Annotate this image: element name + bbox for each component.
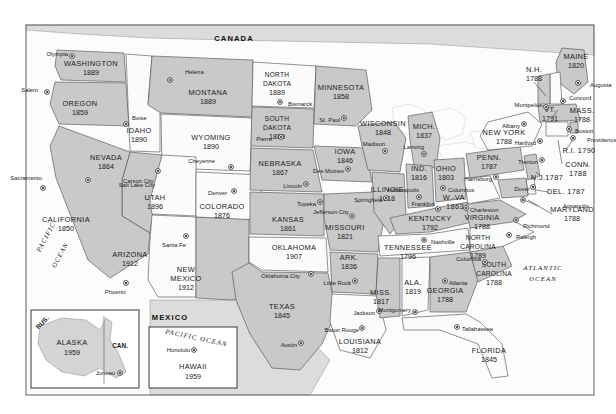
capital-marker-core-SD bbox=[280, 136, 282, 138]
state-year-NM: 1912 bbox=[178, 283, 194, 292]
capital-label-IN: Indianapolis bbox=[388, 187, 419, 193]
capital-marker-core-RI bbox=[572, 137, 574, 139]
capital-marker-core-SC bbox=[484, 261, 486, 263]
state-name-WI: WISCONSIN bbox=[360, 119, 406, 128]
capital-label-RI: Providence bbox=[587, 137, 616, 143]
state-name-MA: MASS. bbox=[570, 106, 595, 115]
inset-hawaii: PACIFIC OCEAN Honolulu HAWAII 1959 bbox=[149, 327, 237, 388]
state-name-FL: FLORIDA bbox=[472, 346, 506, 355]
capital-marker-core-IN bbox=[418, 196, 420, 198]
state-name-UT: UTAH bbox=[145, 193, 166, 202]
state-name-OH: OHIO bbox=[436, 164, 456, 173]
state-name-MI: MICH. bbox=[413, 122, 436, 131]
state-name-ND: NORTH bbox=[265, 71, 290, 78]
state-year-MI: 1837 bbox=[416, 131, 432, 140]
capital-label-ME: Augusta bbox=[590, 82, 612, 88]
capital-marker-core-MO bbox=[351, 215, 353, 217]
state-name-NJ: N.J.1787 bbox=[531, 173, 563, 182]
state-name-CT: CONN. bbox=[565, 160, 591, 169]
state-year-MA: 1788 bbox=[574, 115, 590, 124]
state-name-OR: OREGON bbox=[63, 99, 98, 108]
state-name-IA: IOWA bbox=[335, 147, 356, 156]
state-name-GA: GEORGIA bbox=[427, 286, 464, 295]
state-year-KY: 1792 bbox=[422, 223, 438, 232]
state-year-ND: 1889 bbox=[269, 88, 285, 97]
capital-marker-core-NE bbox=[305, 183, 307, 185]
capital-marker-core-KY bbox=[437, 208, 439, 210]
state-name-SC: CAROLINA bbox=[476, 270, 512, 277]
capital-label-WA: Olympia bbox=[46, 51, 68, 57]
state-year-TX: 1845 bbox=[274, 311, 290, 320]
state-name-AL: ALA. bbox=[404, 278, 421, 287]
capital-label-VT: Montpelier bbox=[514, 102, 542, 108]
state-name-WV: 1863 bbox=[446, 202, 464, 211]
inset-label-hawaii: HAWAII bbox=[179, 362, 207, 371]
state-name-LA: LOUISIANA bbox=[339, 337, 382, 346]
capital-label-AL: Montgomery bbox=[378, 307, 411, 313]
capital-label-AZ: Phoenix bbox=[105, 289, 126, 295]
capital-label-MO: Jefferson City bbox=[313, 209, 349, 215]
capital-label-WV: Charleston bbox=[470, 207, 499, 213]
capital-marker-core-NM bbox=[185, 235, 187, 237]
state-name-RI: R.I. 1790 bbox=[562, 146, 595, 155]
capital-label-MS: Jackson bbox=[353, 310, 375, 316]
state-year-CO: 1876 bbox=[214, 211, 230, 220]
state-name-MN: MINNESOTA bbox=[318, 83, 365, 92]
state-year-OK: 1907 bbox=[286, 252, 302, 261]
state-name-OK: OKLAHOMA bbox=[272, 243, 317, 252]
state-year-ME: 1820 bbox=[568, 61, 584, 70]
state-year-LA: 1812 bbox=[352, 346, 368, 355]
capital-label-FL: Tallahassee bbox=[462, 326, 494, 332]
capital-marker-core-IL bbox=[385, 197, 387, 199]
capital-marker-core-NH bbox=[562, 100, 564, 102]
capital-label-VA: Richmond bbox=[523, 223, 550, 229]
capital-marker-core-PA bbox=[495, 176, 497, 178]
state-name-ME: MAINE bbox=[563, 52, 588, 61]
state-year-WY: 1890 bbox=[203, 142, 219, 151]
state-name-SD: DAKOTA bbox=[263, 124, 291, 131]
state-name-AZ: ARIZONA bbox=[112, 250, 147, 259]
capital-marker-core-MA bbox=[568, 128, 570, 130]
state-name-MT: MONTANA bbox=[189, 88, 228, 97]
state-name-WY: WYOMING bbox=[191, 133, 230, 142]
capital-label-CT: Hartford bbox=[515, 140, 536, 146]
state-year-NE: 1867 bbox=[272, 168, 288, 177]
state-name-VA: VIRGINIA bbox=[464, 213, 499, 222]
capital-marker-core-KS bbox=[319, 201, 321, 203]
state-name-NE: NEBRASKA bbox=[258, 159, 301, 168]
capital-marker-core-VA bbox=[515, 219, 517, 221]
ocean-label-atlantic-line1: ATLANTIC bbox=[522, 264, 563, 271]
state-year-OH: 1803 bbox=[438, 173, 454, 182]
state-year-IA: 1846 bbox=[337, 156, 353, 165]
state-name-MS: MISS. bbox=[370, 288, 392, 297]
state-year-NY: 1788 bbox=[496, 137, 512, 146]
state-name-WV: W.-VA. bbox=[443, 193, 468, 202]
state-year-CA: 1850 bbox=[58, 224, 74, 233]
capital-marker-core-ND bbox=[279, 101, 281, 103]
capital-label-NC: Raleigh bbox=[516, 234, 536, 240]
capital-marker-core-OR bbox=[46, 91, 48, 93]
state-name-CO: COLORADO bbox=[199, 202, 244, 211]
capital-marker-core-UT bbox=[157, 170, 159, 172]
state-name-KS: KANSAS bbox=[272, 215, 304, 224]
capital-marker-core-ME bbox=[577, 82, 579, 84]
capital-marker-core-GA bbox=[444, 280, 446, 282]
state-year-OR: 1859 bbox=[72, 108, 88, 117]
inset-year-alaska: 1959 bbox=[64, 348, 80, 357]
capital-marker-core-VT bbox=[545, 106, 547, 108]
capital-marker-core-NV bbox=[87, 179, 89, 181]
state-year-UT: 1896 bbox=[147, 202, 163, 211]
state-name-IN: IND. bbox=[411, 164, 427, 173]
state-shape-MT bbox=[148, 56, 253, 117]
capital-label-MA: Boston bbox=[575, 128, 593, 134]
inset-label-can: CAN. bbox=[112, 342, 128, 349]
capital-label-GA: Atlanta bbox=[449, 280, 468, 286]
capital-label-SD: Pierre bbox=[256, 136, 272, 142]
capital-marker-core-NC bbox=[508, 234, 510, 236]
capital-marker-core-WY bbox=[230, 166, 232, 168]
state-year-FL: 1845 bbox=[481, 355, 497, 364]
state-name-NM: MEXICO bbox=[170, 274, 201, 283]
capital-marker-core-OH bbox=[442, 187, 444, 189]
state-year-NC: 1789 bbox=[470, 251, 486, 260]
state-year-GA: 1788 bbox=[437, 295, 453, 304]
